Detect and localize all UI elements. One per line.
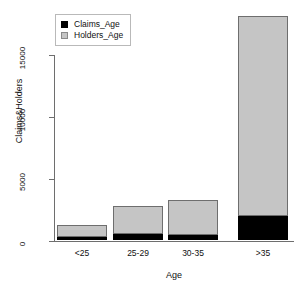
x-axis-title: Age — [54, 270, 294, 280]
y-axis-title: Claims&Holders — [14, 66, 24, 156]
y-axis-line — [54, 55, 55, 241]
y-tick-10000 — [49, 117, 54, 118]
x-axis-line — [54, 241, 294, 242]
y-tick-label-5000: 5000 — [6, 173, 40, 185]
bar-30-35 — [168, 200, 218, 240]
bar-segment-holders->35 — [238, 16, 288, 216]
bar-segment-claims-25-29 — [113, 234, 163, 240]
bar-segment-claims->35 — [238, 216, 288, 240]
bar-segment-claims-<25 — [57, 237, 107, 240]
x-tick-label-<25: <25 — [57, 248, 107, 258]
y-tick-5000 — [49, 179, 54, 180]
bar-segment-holders-30-35 — [168, 200, 218, 234]
black-square-icon — [61, 21, 68, 28]
x-tick-label-25-29: 25-29 — [113, 248, 163, 258]
y-tick-label-15000: 15000 — [6, 49, 40, 61]
legend-item-holders: Holders_Age — [61, 30, 123, 41]
legend-item-claims: Claims_Age — [61, 19, 123, 30]
y-tick-15000 — [49, 55, 54, 56]
legend-label-claims: Claims_Age — [74, 19, 120, 30]
bar-<25 — [57, 225, 107, 240]
grey-square-icon — [61, 32, 68, 39]
chart-figure: 050001000015000 Claims&Holders <2525-293… — [0, 0, 307, 294]
bar-25-29 — [113, 206, 163, 240]
chart-legend: Claims_Age Holders_Age — [55, 14, 131, 46]
legend-label-holders: Holders_Age — [74, 30, 123, 41]
bar->35 — [238, 16, 288, 240]
bar-segment-holders-25-29 — [113, 206, 163, 234]
bar-segment-holders-<25 — [57, 225, 107, 237]
x-tick-label->35: >35 — [238, 248, 288, 258]
y-tick-label-0: 0 — [6, 235, 40, 247]
x-tick-label-30-35: 30-35 — [168, 248, 218, 258]
plot-area: 050001000015000 Claims&Holders <2525-293… — [0, 0, 307, 294]
bar-segment-claims-30-35 — [168, 235, 218, 241]
